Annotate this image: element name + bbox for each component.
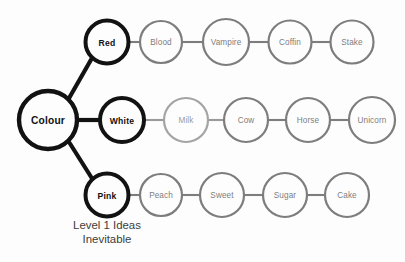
node-label-cow: Cow [238,116,255,125]
node-red[interactable]: Red [86,21,129,64]
node-label-cake: Cake [337,191,357,200]
node-layer: BloodVampireCoffinStakeMilkCowHorseUnico… [19,19,395,217]
node-milk[interactable]: Milk [164,98,208,142]
node-peach[interactable]: Peach [140,174,182,216]
node-pink[interactable]: Pink [86,174,129,217]
node-cow[interactable]: Cow [224,98,268,142]
node-unicorn[interactable]: Unicorn [349,97,395,143]
caption-block: Level 1 Ideas Inevitable [33,219,181,247]
node-sugar[interactable]: Sugar [263,173,307,217]
node-label-vampire: Vampire [211,38,242,47]
node-cake[interactable]: Cake [325,173,369,217]
node-label-pink: Pink [98,191,117,201]
node-label-horse: Horse [297,116,320,125]
node-label-colour: Colour [31,115,65,126]
node-label-red: Red [99,38,116,48]
node-label-blood: Blood [150,38,172,47]
node-label-sugar: Sugar [274,191,297,200]
node-blood[interactable]: Blood [140,21,182,63]
node-label-sweet: Sweet [210,191,234,200]
node-label-peach: Peach [149,191,173,200]
node-label-stake: Stake [341,38,363,47]
edge-colour-red [68,58,92,100]
node-coffin[interactable]: Coffin [269,21,312,64]
node-horse[interactable]: Horse [286,98,330,142]
edge-colour-pink [69,142,93,180]
diagram-canvas: BloodVampireCoffinStakeMilkCowHorseUnico… [0,0,405,262]
node-colour[interactable]: Colour [19,91,77,149]
node-label-white: White [110,116,134,126]
node-white[interactable]: White [100,98,144,142]
node-stake[interactable]: Stake [331,21,374,64]
caption-line-1: Level 1 Ideas [33,219,181,233]
node-label-coffin: Coffin [279,38,301,47]
node-vampire[interactable]: Vampire [203,19,249,65]
caption-line-2: Inevitable [33,233,181,247]
node-label-unicorn: Unicorn [358,116,387,125]
node-label-milk: Milk [179,116,195,125]
node-sweet[interactable]: Sweet [200,173,244,217]
